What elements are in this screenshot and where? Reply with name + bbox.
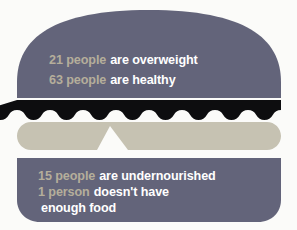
top-bun-line-2: 63 peopleare healthy	[49, 73, 176, 87]
bottom-bun-line-1-count: 15 people	[38, 169, 95, 183]
bottom-bun-line-3-label: enough food	[41, 201, 116, 215]
bottom-bun-line-2-count: 1 person	[38, 185, 90, 199]
hamburger-infographic: 21 peopleare overweight 63 peopleare hea…	[0, 0, 297, 230]
top-bun-line-1: 21 peopleare overweight	[49, 53, 199, 67]
cheese-slice-shape	[17, 122, 281, 150]
top-bun-line-1-count: 21 people	[49, 53, 106, 67]
bottom-bun-line-2-label: doesn't have	[94, 185, 169, 199]
bottom-bun-line-1-label: are undernourished	[99, 169, 215, 183]
bottom-bun-line-1: 15 peopleare undernourished	[38, 169, 216, 183]
top-bun-line-1-label: are overweight	[110, 53, 198, 67]
cheese-slice-layer	[17, 122, 281, 150]
top-bun-line-2-label: are healthy	[110, 73, 175, 87]
bottom-bun-line-2: 1 persondoesn't have	[38, 185, 169, 199]
top-bun-line-2-count: 63 people	[49, 73, 106, 87]
